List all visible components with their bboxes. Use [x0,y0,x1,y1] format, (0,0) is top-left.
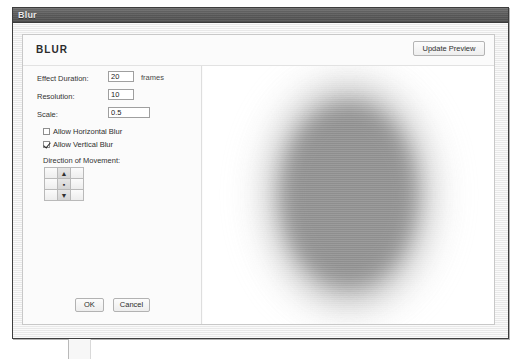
direction-cell-down-left[interactable] [45,190,57,200]
window-title-bar: Blur [13,8,508,23]
blur-dialog-window: Blur BLUR Update Preview Effect Duration… [12,7,509,339]
scale-input[interactable] [108,107,150,118]
blank-icon [45,190,57,200]
direction-cell-up-left[interactable] [45,168,57,178]
checkbox-icon [43,128,50,135]
center-dot-icon: ▪ [58,179,70,189]
resolution-label: Resolution: [37,92,75,101]
scale-row: Scale: [37,108,58,120]
effect-duration-input[interactable] [108,71,134,82]
resolution-row: Resolution: [37,90,75,102]
allow-horizontal-blur-label: Allow Horizontal Blur [53,127,122,136]
blank-icon [71,179,83,189]
page-title: BLUR [36,44,68,55]
direction-cell-center[interactable]: ▪ [58,179,70,189]
blank-icon [71,190,83,200]
effect-duration-row: Effect Duration: [37,72,89,84]
blank-icon [45,179,57,189]
cancel-button[interactable]: Cancel [113,298,150,312]
checkbox-checked-icon [43,141,50,148]
direction-of-movement-grid[interactable]: ▲ ▪ [44,167,84,201]
direction-of-movement-label: Direction of Movement: [43,156,120,165]
window-body: BLUR Update Preview Effect Duration: fra… [13,23,508,338]
update-preview-button[interactable]: Update Preview [413,41,485,56]
arrow-up-icon: ▲ [58,168,70,178]
direction-cell-right[interactable] [71,179,83,189]
blank-icon [71,168,83,178]
scale-label: Scale: [37,110,58,119]
allow-vertical-blur-label: Allow Vertical Blur [53,140,113,149]
allow-vertical-blur-checkbox[interactable]: Allow Vertical Blur [43,140,113,149]
window-footer-tab [68,339,91,359]
resolution-input[interactable] [108,89,134,100]
direction-cell-up[interactable]: ▲ [58,168,70,178]
arrow-down-icon: ▼ [58,190,70,200]
blank-icon [45,168,57,178]
effect-duration-label: Effect Duration: [37,74,89,83]
direction-cell-down[interactable]: ▼ [58,190,70,200]
blur-settings-panel: BLUR Update Preview Effect Duration: fra… [22,34,495,325]
allow-horizontal-blur-checkbox[interactable]: Allow Horizontal Blur [43,127,122,136]
dialog-content: Effect Duration: frames Resolution: Scal… [23,66,494,324]
dialog-header: BLUR Update Preview [23,35,494,66]
dialog-button-bar: OK Cancel [23,298,202,312]
direction-cell-left[interactable] [45,179,57,189]
direction-cell-down-right[interactable] [71,190,83,200]
direction-cell-up-right[interactable] [71,168,83,178]
window-title: Blur [18,10,37,20]
preview-blurred-ellipse [254,77,444,313]
preview-pane[interactable] [203,66,494,324]
options-pane: Effect Duration: frames Resolution: Scal… [23,66,202,324]
blur-core-layer [284,106,414,284]
effect-duration-units: frames [141,73,164,82]
ok-button[interactable]: OK [75,298,104,312]
